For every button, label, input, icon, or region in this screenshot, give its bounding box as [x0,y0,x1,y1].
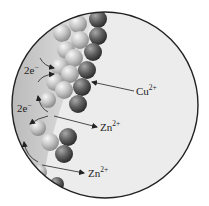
copper-atom [84,43,102,61]
copper-atom [59,128,77,146]
copper-atom [73,78,91,96]
zinc-atom [41,133,59,151]
copper-atom [55,145,73,163]
copper-atom [78,61,96,79]
copper-atom [69,95,87,113]
zinc-atom [55,81,73,99]
zinc-copper-redox-diagram: 2e− 2e− Cu2+ Zn2+ Zn2+ [0,0,209,206]
zinc-atom [40,92,56,108]
copper-atom [89,27,107,45]
